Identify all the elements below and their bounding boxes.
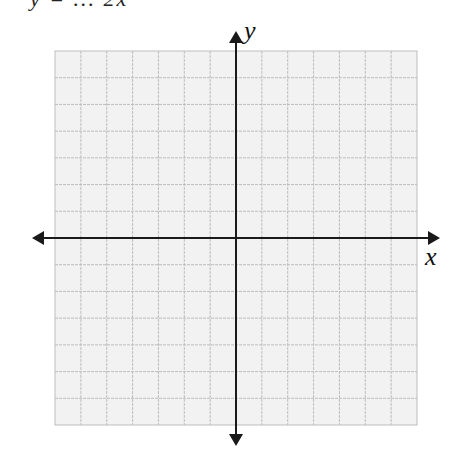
arrow-down-icon [229, 434, 243, 446]
x-axis-label: x [425, 244, 437, 270]
y-axis-label: y [244, 18, 256, 44]
arrow-up-icon [229, 31, 243, 43]
coordinate-plane [0, 0, 457, 461]
arrow-left-icon [32, 231, 44, 245]
